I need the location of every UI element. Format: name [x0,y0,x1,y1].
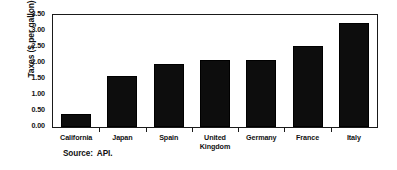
x-axis-category-label: Germany [238,134,284,143]
x-axis-tick-mark [238,128,239,132]
x-axis-category-label-line: France [284,134,330,143]
bar [246,60,276,127]
bar [107,76,137,127]
y-axis-tick-label: 2.00 [31,57,45,66]
x-axis-category-label-line: Spain [146,134,192,143]
bar [200,60,230,127]
y-axis-tick-label: 3.50 [31,9,45,18]
y-axis-tick-label: 3.00 [31,25,45,34]
x-axis-category-label: Japan [99,134,145,143]
x-axis-category-label-line: Germany [238,134,284,143]
y-axis-tick-label: 0.00 [31,121,45,130]
x-axis-category-label: California [53,134,99,143]
x-axis-tick-mark [284,128,285,132]
y-axis-tick-label: 0.50 [31,105,45,114]
x-axis-category-label-line: Kingdom [192,143,238,152]
plot-area [53,15,377,127]
y-axis-title-container: Taxes ($ per gallon) [0,14,30,128]
chart-screenshot: Taxes ($ per gallon) 0.000.501.001.502.0… [0,0,397,170]
y-axis-tick-label: 2.50 [31,41,45,50]
x-axis-category-label-line: Japan [99,134,145,143]
x-axis-category-label: UnitedKingdom [192,134,238,151]
x-axis-category-label-line: California [53,134,99,143]
x-axis-tick-mark [192,128,193,132]
x-axis-category-label: Spain [146,134,192,143]
x-axis-tick-mark [99,128,100,132]
x-axis-tick-mark [146,128,147,132]
x-axis-category-label: France [284,134,330,143]
x-axis-category-label: Italy [331,134,377,143]
source-note: Source: API. [63,149,112,158]
bar [61,114,91,127]
bar [293,46,323,127]
x-axis-tick-mark [331,128,332,132]
y-axis-tick-label: 1.00 [31,89,45,98]
bar [339,23,369,127]
y-axis-tick-label: 1.50 [31,73,45,82]
bar [154,64,184,127]
x-axis-category-label-line: Italy [331,134,377,143]
